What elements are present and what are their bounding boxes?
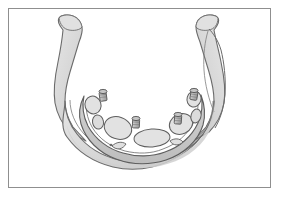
mandible-bone-group bbox=[54, 15, 225, 169]
fenestration-6 bbox=[170, 139, 183, 145]
figure-root: Mandible with reconstruction plate Super… bbox=[0, 0, 281, 198]
fenestration-4 bbox=[112, 142, 126, 149]
screw-4-head bbox=[190, 88, 198, 92]
mandible-illustration bbox=[0, 0, 281, 198]
screw-1-head bbox=[99, 89, 107, 93]
screw-3 bbox=[174, 112, 182, 124]
screw-2 bbox=[132, 116, 140, 128]
fenestration-3 bbox=[101, 113, 135, 143]
screw-3-head bbox=[174, 112, 182, 116]
fenestration-5 bbox=[133, 128, 170, 148]
fenestration-2 bbox=[91, 114, 104, 130]
screw-4 bbox=[190, 88, 198, 100]
screw-1 bbox=[99, 89, 107, 101]
screw-2-head bbox=[132, 116, 140, 120]
